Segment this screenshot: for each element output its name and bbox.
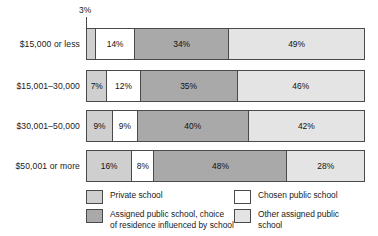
segment-other-assigned-2: 42% xyxy=(248,111,364,141)
chart-row: $15,000 or less 14% 34% 49% xyxy=(0,28,378,60)
segment-chosen-public-3: 8% xyxy=(131,151,153,181)
segment-chosen-public-1: 12% xyxy=(106,71,139,101)
callout-leader-line xyxy=(86,17,87,30)
callout-label: 3% xyxy=(79,6,91,14)
stacked-bar-2: 9% 9% 40% 42% xyxy=(86,110,365,142)
segment-value: 14% xyxy=(107,40,124,48)
legend-label: Assigned public school, choice of reside… xyxy=(110,209,234,230)
category-label-3: $50,001 or more xyxy=(0,150,80,182)
segment-assigned-influenced-0: 34% xyxy=(134,29,228,59)
segment-private-2: 9% xyxy=(87,111,112,141)
segment-assigned-influenced-3: 48% xyxy=(153,151,286,181)
segment-value: 8% xyxy=(137,162,149,170)
category-label-2: $30,001–50,000 xyxy=(0,110,80,142)
legend-item-assigned-influenced: Assigned public school, choice of reside… xyxy=(86,209,234,230)
legend-label: Private school xyxy=(110,190,163,201)
segment-chosen-public-0: 14% xyxy=(95,29,134,59)
category-label-0: $15,000 or less xyxy=(0,28,80,60)
segment-other-assigned-1: 46% xyxy=(237,71,364,101)
segment-chosen-public-2: 9% xyxy=(112,111,137,141)
callout-3-percent: 3% xyxy=(79,6,119,30)
chart-row: $30,001–50,000 9% 9% 40% 42% xyxy=(0,110,378,142)
segment-value: 35% xyxy=(180,82,197,90)
chart-row: $15,001–30,000 7% 12% 35% 46% xyxy=(0,70,378,102)
stacked-bar-3: 16% 8% 48% 28% xyxy=(86,150,365,182)
segment-value: 49% xyxy=(288,40,305,48)
legend-item-other-assigned-public: Other assigned public school xyxy=(234,209,339,230)
segment-value: 9% xyxy=(93,122,105,130)
legend-item-chosen-public-school: Chosen public school xyxy=(234,190,338,204)
segment-value: 16% xyxy=(101,162,118,170)
stacked-bar-1: 7% 12% 35% 46% xyxy=(86,70,365,102)
legend-swatch-icon xyxy=(234,209,251,223)
segment-value: 42% xyxy=(298,122,315,130)
segment-value: 9% xyxy=(119,122,131,130)
legend-label: Chosen public school xyxy=(258,190,338,201)
segment-value: 28% xyxy=(317,162,334,170)
segment-private-3: 16% xyxy=(87,151,131,181)
segment-other-assigned-3: 28% xyxy=(286,151,364,181)
legend-item-private-school: Private school xyxy=(86,190,163,204)
legend-label: Other assigned public school xyxy=(258,209,339,230)
segment-private-1: 7% xyxy=(87,71,106,101)
segment-private-0 xyxy=(87,29,95,59)
segment-assigned-influenced-2: 40% xyxy=(137,111,248,141)
chart-row: $50,001 or more 16% 8% 48% 28% xyxy=(0,150,378,182)
segment-value: 34% xyxy=(173,40,190,48)
segment-value: 12% xyxy=(115,82,132,90)
stacked-bar-chart: $15,000 or less 14% 34% 49% 3% $15,001–3… xyxy=(0,0,378,236)
segment-value: 48% xyxy=(212,162,229,170)
legend-swatch-icon xyxy=(86,209,103,223)
stacked-bar-0: 14% 34% 49% xyxy=(86,28,365,60)
segment-other-assigned-0: 49% xyxy=(228,29,364,59)
legend-swatch-icon xyxy=(86,190,103,204)
segment-value: 46% xyxy=(292,82,309,90)
segment-assigned-influenced-1: 35% xyxy=(140,71,237,101)
legend-swatch-icon xyxy=(234,190,251,204)
segment-value: 7% xyxy=(91,82,103,90)
chart-legend: Private school Assigned public school, c… xyxy=(86,190,372,232)
segment-value: 40% xyxy=(184,122,201,130)
category-label-1: $15,001–30,000 xyxy=(0,70,80,102)
